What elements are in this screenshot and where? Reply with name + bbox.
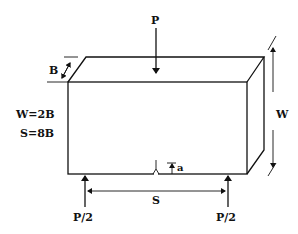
width-relation: W=2B	[15, 108, 55, 121]
support-left-label: P/2	[73, 211, 93, 224]
width-dimension: W	[268, 36, 289, 176]
crack-length-dimension: a	[167, 162, 184, 174]
specimen-diagram: a P B W P/2 P/2 S W=2B S=8B	[0, 0, 298, 234]
span-relation: S=8B	[20, 127, 54, 140]
notch	[153, 160, 159, 175]
span-label: S	[152, 194, 160, 207]
top-face	[68, 57, 264, 82]
thickness-dimension: B	[47, 57, 78, 82]
width-label: W	[275, 108, 289, 121]
support-right: P/2	[216, 176, 236, 224]
crack-label: a	[177, 162, 184, 173]
support-left: P/2	[73, 176, 93, 224]
specimen-block	[68, 57, 264, 174]
load-arrow: P	[151, 14, 159, 73]
support-right-label: P/2	[216, 211, 236, 224]
right-face	[247, 57, 264, 174]
front-face	[68, 82, 247, 174]
load-label: P	[151, 14, 159, 27]
thickness-label: B	[49, 64, 58, 77]
span-dimension: S	[88, 191, 225, 207]
